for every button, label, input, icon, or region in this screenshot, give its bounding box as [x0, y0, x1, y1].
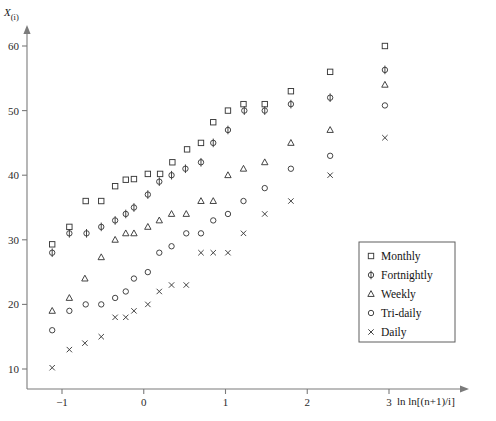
data-point [184, 282, 189, 287]
marker-square [83, 198, 88, 203]
data-point [288, 198, 293, 203]
y-axis-arrow [23, 25, 30, 34]
y-tick-label: 10 [8, 363, 20, 375]
data-point [198, 250, 203, 255]
y-tick-label: 50 [8, 105, 20, 117]
marker-triangle [123, 230, 129, 236]
data-point [327, 127, 333, 133]
data-point [169, 171, 174, 180]
data-point [183, 211, 189, 217]
x-tick-label: 1 [223, 396, 229, 408]
data-point [49, 242, 54, 247]
chart-legend: MonthlyFortnightlyWeeklyTri-dailyDaily [359, 242, 455, 342]
marker-triangle [66, 295, 72, 301]
data-point [82, 340, 87, 345]
marker-square [241, 101, 246, 106]
data-point [211, 218, 216, 223]
data-point [157, 250, 162, 255]
marker-square [112, 183, 117, 188]
data-point [99, 223, 104, 232]
data-point [156, 217, 162, 223]
marker-triangle [49, 307, 55, 313]
data-point [157, 171, 162, 176]
marker-square [327, 69, 332, 74]
data-point [123, 289, 128, 294]
data-point [288, 140, 294, 146]
data-point [262, 159, 268, 165]
data-point [210, 198, 216, 204]
x-tick-label: 2 [305, 396, 311, 408]
data-point [67, 224, 72, 229]
data-point [131, 203, 136, 212]
data-point [49, 248, 54, 257]
axes-layer: 102030405060−10123X(i)ln ln[(n+1)/i] [3, 6, 469, 408]
data-point [288, 89, 293, 94]
data-point [131, 308, 136, 313]
data-point [112, 216, 117, 225]
data-point [242, 106, 247, 115]
data-point [84, 229, 89, 238]
data-point [169, 282, 174, 287]
marker-triangle [82, 275, 88, 281]
marker-triangle [210, 198, 216, 204]
marker-square [123, 177, 128, 182]
marker-circle [184, 231, 189, 236]
data-point [49, 365, 54, 370]
data-point [99, 334, 104, 339]
marker-triangle [98, 254, 104, 260]
marker-square [262, 101, 267, 106]
marker-circle [382, 103, 387, 108]
data-point [241, 198, 246, 203]
data-point [131, 230, 137, 236]
data-point [67, 347, 72, 352]
data-point [145, 302, 150, 307]
data-point [198, 140, 203, 145]
data-point [262, 106, 267, 115]
data-point [382, 103, 387, 108]
marker-triangle [198, 198, 204, 204]
data-point [98, 254, 104, 260]
marker-square [157, 171, 162, 176]
marker-triangle [327, 127, 333, 133]
data-point [327, 69, 332, 74]
data-points-layer [49, 43, 388, 370]
y-tick-label: 20 [8, 298, 20, 310]
x-tick-label: −1 [56, 396, 68, 408]
marker-circle [145, 269, 150, 274]
data-point [157, 177, 162, 186]
data-point [241, 101, 246, 106]
series-monthly [49, 43, 387, 247]
marker-circle [83, 302, 88, 307]
data-point [112, 183, 117, 188]
y-tick-label: 40 [8, 169, 20, 181]
marker-square [49, 242, 54, 247]
chart-root: 102030405060−10123X(i)ln ln[(n+1)/i] Mon… [0, 0, 496, 421]
marker-circle [157, 250, 162, 255]
data-point [123, 210, 128, 219]
data-point [145, 269, 150, 274]
marker-triangle [112, 236, 118, 242]
data-point [123, 230, 129, 236]
marker-triangle [145, 224, 151, 230]
marker-triangle [183, 211, 189, 217]
data-point [211, 139, 216, 148]
marker-triangle [240, 165, 246, 171]
data-point [198, 231, 203, 236]
data-point [83, 302, 88, 307]
data-point [112, 295, 117, 300]
data-point [99, 302, 104, 307]
x-tick-label: 3 [386, 396, 392, 408]
x-axis-arrow [460, 385, 469, 392]
marker-circle [262, 185, 267, 190]
data-point [112, 315, 117, 320]
data-point [225, 172, 231, 178]
data-point [225, 108, 230, 113]
marker-circle [169, 244, 174, 249]
data-point [225, 211, 230, 216]
data-point [82, 275, 88, 281]
marker-triangle [262, 159, 268, 165]
data-point [123, 177, 128, 182]
marker-circle [49, 328, 54, 333]
data-point [168, 211, 174, 217]
data-point [382, 43, 387, 48]
